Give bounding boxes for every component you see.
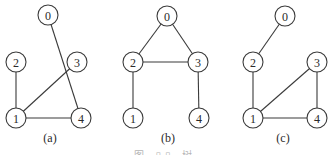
node-label: 3 — [74, 56, 80, 70]
node-1: 1 — [243, 108, 263, 128]
node-3: 3 — [307, 52, 327, 72]
graph-c: 02314(c) — [243, 6, 327, 145]
node-label: 3 — [195, 56, 201, 70]
node-2: 2 — [243, 52, 263, 72]
node-0: 0 — [157, 6, 177, 26]
node-label: 0 — [45, 9, 51, 23]
graph-a: 02314(a) — [6, 5, 91, 145]
node-label: 1 — [130, 112, 136, 126]
figure-caption: 图 ▯▯ 树 — [0, 147, 330, 155]
node-label: 1 — [13, 112, 19, 126]
node-1: 1 — [123, 108, 143, 128]
edge-3-1 — [16, 62, 77, 118]
subfigure-label: (a) — [43, 131, 56, 145]
node-0: 0 — [275, 6, 295, 26]
node-label: 1 — [250, 112, 256, 126]
subfigure-label: (c) — [276, 131, 289, 145]
node-2: 2 — [123, 52, 143, 72]
node-4: 4 — [307, 108, 327, 128]
node-label: 0 — [282, 10, 288, 24]
node-label: 2 — [13, 56, 19, 70]
node-label: 2 — [130, 56, 136, 70]
node-2: 2 — [6, 52, 26, 72]
graph-b: 02314(b) — [123, 6, 209, 145]
node-label: 0 — [164, 10, 170, 24]
edge-3-1 — [253, 62, 317, 118]
node-3: 3 — [188, 52, 208, 72]
node-3: 3 — [67, 52, 87, 72]
node-label: 2 — [250, 56, 256, 70]
node-label: 4 — [78, 112, 84, 126]
node-0: 0 — [38, 5, 58, 25]
node-label: 4 — [196, 112, 202, 126]
node-1: 1 — [6, 108, 26, 128]
node-4: 4 — [71, 108, 91, 128]
graph-diagram: 02314(a) 02314(b) 02314(c) — [0, 0, 330, 155]
node-label: 3 — [314, 56, 320, 70]
subfigure-label: (b) — [161, 131, 175, 145]
node-label: 4 — [314, 112, 320, 126]
node-4: 4 — [189, 108, 209, 128]
